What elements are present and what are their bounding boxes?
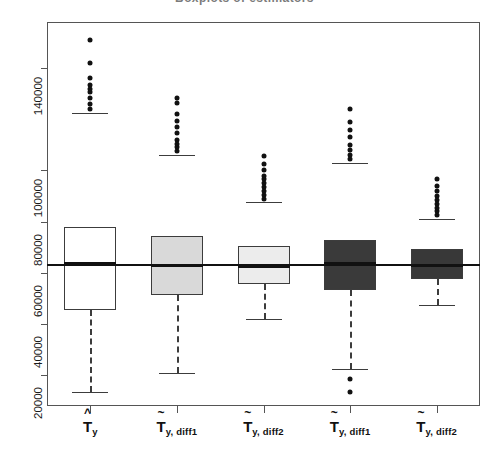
outlier-point	[434, 188, 439, 193]
y-axis-tick-label: 80000	[32, 220, 44, 280]
x-axis-tick-label: T~y, diff2	[416, 418, 457, 437]
x-axis-tick-label: T^y	[83, 418, 98, 437]
x-axis-tick-label: T~y, diff1	[157, 418, 198, 437]
x-axis-tick	[177, 406, 178, 413]
boxplot-figure: Boxplots of estimators 20000400006000080…	[0, 0, 489, 449]
whisker-lower	[437, 279, 439, 305]
estimator-symbol: T~	[243, 418, 252, 435]
accent-mark: ^	[84, 407, 91, 419]
y-axis-tick-label: 100000	[32, 168, 44, 228]
boxplot-group	[47, 22, 480, 406]
estimator-subscript: y, diff1	[339, 426, 371, 437]
accent-mark: ~	[331, 407, 338, 419]
estimator-subscript: y	[92, 426, 97, 437]
x-axis-tick	[264, 406, 265, 413]
reference-line	[47, 264, 480, 266]
cap-upper	[419, 219, 455, 220]
estimator-symbol: T^	[83, 418, 92, 435]
estimator-symbol: T~	[416, 418, 425, 435]
y-axis-tick-label: 40000	[32, 322, 44, 382]
plot-area	[47, 22, 480, 406]
y-axis-tick-label: 140000	[32, 66, 44, 126]
page-title: Boxplots of estimators	[0, 0, 489, 5]
estimator-subscript: y, diff1	[166, 426, 198, 437]
x-axis-tick-label: T~y, diff2	[243, 418, 284, 437]
estimator-subscript: y, diff2	[426, 426, 458, 437]
x-axis-tick-label: T~y, diff1	[330, 418, 371, 437]
accent-mark: ~	[417, 407, 424, 419]
estimator-symbol: T~	[330, 418, 339, 435]
outlier-point	[434, 194, 439, 199]
outlier-point	[434, 177, 439, 182]
x-axis-tick	[437, 406, 438, 413]
accent-mark: ~	[244, 407, 251, 419]
cap-lower	[419, 305, 455, 306]
y-axis-tick-label: 20000	[32, 373, 44, 433]
accent-mark: ~	[158, 407, 165, 419]
estimator-symbol: T~	[157, 418, 166, 435]
estimator-subscript: y, diff2	[252, 426, 284, 437]
x-axis-tick	[350, 406, 351, 413]
outlier-point	[434, 183, 439, 188]
